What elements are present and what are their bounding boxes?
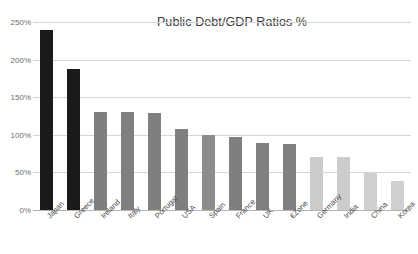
bar: [256, 143, 269, 210]
bar: [283, 144, 296, 210]
bar: [148, 113, 161, 210]
y-axis-tick-label: 200%: [1, 55, 31, 64]
bar: [202, 135, 215, 210]
bar: [94, 112, 107, 210]
bar: [229, 137, 242, 210]
bar: [364, 173, 377, 210]
chart-container: Public Debt/GDP Ratios % 250%200%150%100…: [0, 0, 418, 254]
y-axis-tick-label: 50%: [1, 168, 31, 177]
bar: [121, 112, 134, 210]
bar: [40, 30, 53, 210]
y-axis-tick-label: 100%: [1, 130, 31, 139]
bar: [391, 181, 404, 210]
y-axis: 250%200%150%100%50%0%: [0, 22, 31, 210]
y-axis-tick-label: 150%: [1, 93, 31, 102]
y-axis-tick-label: 250%: [1, 18, 31, 27]
bar: [310, 157, 323, 210]
bar: [67, 69, 80, 210]
bars-layer: [33, 22, 411, 210]
x-axis: JapanGreeceIrelandItalyPortugalUSASpainF…: [33, 211, 411, 254]
y-axis-tick-label: 0%: [1, 206, 31, 215]
